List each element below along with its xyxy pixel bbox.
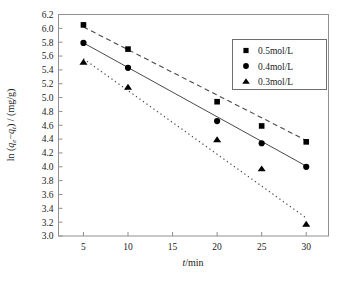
- data-point: [125, 46, 131, 52]
- x-tick-label: 10: [123, 242, 133, 252]
- y-axis-title: ln (qe−qt) / (mg/g): [5, 89, 18, 162]
- data-point: [79, 59, 87, 65]
- y-axis-ticks: [59, 15, 63, 237]
- y-tick-label: 3.0: [42, 231, 54, 241]
- legend-marker-circle: [243, 63, 249, 69]
- y-tick-label: 4.6: [42, 121, 54, 131]
- data-point: [213, 136, 221, 142]
- data-point: [80, 40, 86, 46]
- data-point: [302, 221, 310, 227]
- svg-text:ln (qe−qt) / (mg/g): ln (qe−qt) / (mg/g): [5, 89, 18, 162]
- y-tick-label: 4.0: [42, 162, 54, 172]
- data-point: [124, 84, 132, 90]
- data-point: [214, 99, 220, 105]
- data-point: [258, 165, 266, 171]
- x-axis-title: t/min: [182, 257, 203, 268]
- y-tick-label: 3.4: [42, 204, 54, 214]
- y-tick-label: 6.0: [42, 24, 54, 34]
- x-tick-label: 30: [301, 242, 311, 252]
- scan-artifact: [2, 1, 12, 10]
- y-tick-label: 5.4: [42, 65, 54, 75]
- y-tick-label: 5.2: [42, 79, 54, 89]
- y-tick-label: 3.6: [42, 190, 54, 200]
- legend-label: 0.4mol/L: [258, 62, 293, 72]
- legend-marker-square: [243, 48, 248, 53]
- x-tick-label: 20: [212, 242, 222, 252]
- data-point: [214, 118, 220, 124]
- y-tick-label: 4.2: [42, 148, 54, 158]
- y-tick-label: 4.4: [42, 134, 54, 144]
- y-tick-label: 3.8: [42, 176, 54, 186]
- y-tick-label: 5.0: [42, 93, 54, 103]
- y-tick-label: 5.8: [42, 38, 54, 48]
- legend-label: 0.5mol/L: [258, 46, 293, 56]
- y-axis-tick-labels: 3.03.23.43.63.84.04.24.44.64.85.05.25.45…: [42, 10, 54, 242]
- chart-figure: 3.03.23.43.63.84.04.24.44.64.85.05.25.45…: [0, 0, 354, 281]
- y-tick-label: 4.8: [42, 107, 54, 117]
- x-tick-label: 25: [257, 242, 267, 252]
- y-tick-label: 5.6: [42, 51, 54, 61]
- x-axis-ticks: [83, 232, 306, 236]
- data-point: [125, 65, 131, 71]
- chart-legend: 0.5mol/L0.4mol/L0.3mol/L: [233, 40, 327, 90]
- legend-label: 0.3mol/L: [258, 77, 293, 87]
- line-chart: 3.03.23.43.63.84.04.24.44.64.85.05.25.45…: [0, 0, 354, 281]
- data-point: [303, 164, 309, 170]
- data-point: [259, 123, 265, 129]
- x-tick-label: 15: [168, 242, 178, 252]
- x-axis-tick-labels: 51015202530: [81, 242, 311, 252]
- y-tick-label: 3.2: [42, 218, 54, 228]
- x-tick-label: 5: [81, 242, 86, 252]
- data-point: [303, 139, 309, 145]
- y-tick-label: 6.2: [42, 10, 54, 20]
- data-point: [81, 22, 87, 28]
- data-point: [259, 140, 265, 146]
- svg-text:t/min: t/min: [182, 257, 203, 268]
